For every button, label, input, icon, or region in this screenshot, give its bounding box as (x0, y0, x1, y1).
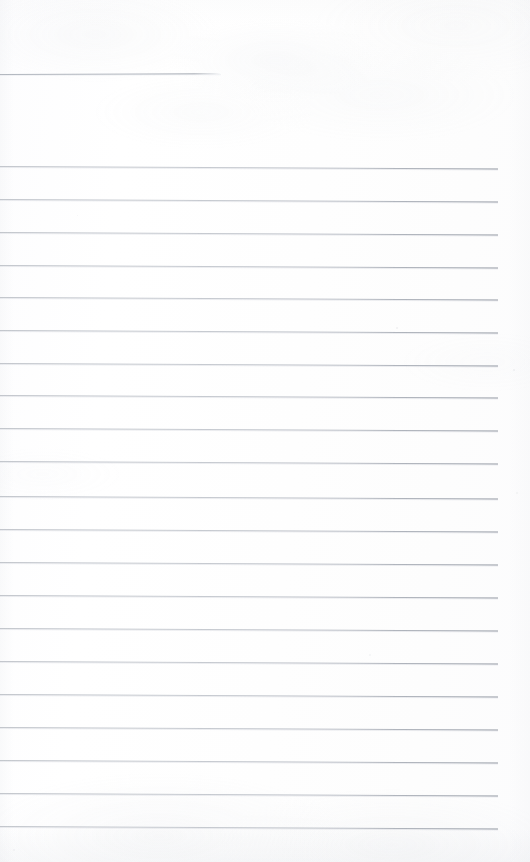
rule-18 (0, 727, 498, 731)
rule-02 (0, 199, 498, 203)
rule-15 (0, 628, 498, 632)
rule-10 (0, 461, 498, 465)
ruled-lines-group (0, 0, 530, 862)
rule-14 (0, 595, 498, 599)
rule-21 (0, 826, 498, 830)
rule-17 (0, 694, 498, 698)
rule-09 (0, 428, 498, 432)
rule-11 (0, 496, 498, 500)
rule-08 (0, 395, 498, 399)
rule-05 (0, 297, 498, 301)
rule-07 (0, 363, 498, 367)
rule-20 (0, 793, 498, 797)
rule-19 (0, 760, 498, 764)
scanned-page (0, 0, 530, 862)
rule-top-partial (0, 73, 221, 75)
rule-03 (0, 232, 498, 236)
rule-04 (0, 265, 498, 269)
rule-16 (0, 661, 498, 665)
rule-12 (0, 529, 498, 533)
rule-06 (0, 330, 498, 334)
rule-01 (0, 166, 498, 170)
rule-13 (0, 562, 498, 566)
